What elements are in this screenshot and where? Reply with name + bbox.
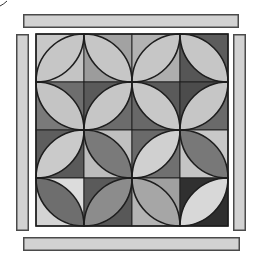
block-cell: [84, 82, 132, 130]
block-cell: [132, 34, 180, 82]
block-cell: [180, 178, 228, 226]
block-cell: [84, 178, 132, 226]
block-cell: [36, 34, 84, 82]
block-cell: [180, 82, 228, 130]
block-cell: [84, 34, 132, 82]
block-cell: [132, 82, 180, 130]
right-border-strip: [234, 35, 246, 231]
quilt-diagram: Orange Peel quilt block with border stri…: [0, 0, 261, 264]
block-cell: [180, 130, 228, 178]
block-cell: [180, 34, 228, 82]
block-cell: [36, 130, 84, 178]
corner-mark: [0, 1, 7, 6]
quilt-svg: [0, 0, 261, 264]
bottom-border-strip: [24, 238, 240, 251]
block-cell: [36, 82, 84, 130]
block-cell: [84, 130, 132, 178]
left-border-strip: [17, 35, 29, 231]
corner-mark-stroke: [0, 1, 7, 6]
block-cell: [132, 178, 180, 226]
top-border-strip: [24, 15, 239, 28]
block-cell: [36, 178, 84, 226]
block-cell: [132, 130, 180, 178]
orange-peel-block: [36, 34, 228, 226]
